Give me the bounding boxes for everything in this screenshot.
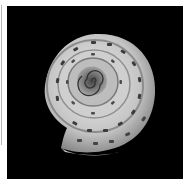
left-border-line [1,5,2,145]
photo-panel: Snail shell viewed from above (apical vi… [7,6,183,179]
snail-shell-image [7,6,183,179]
